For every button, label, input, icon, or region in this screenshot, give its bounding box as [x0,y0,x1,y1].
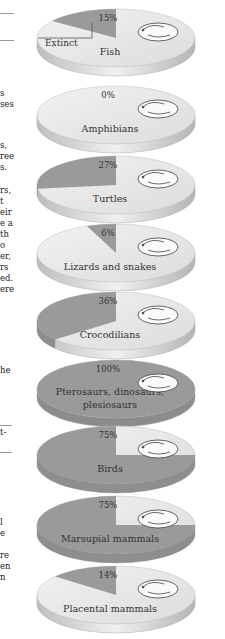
category-label: Crocodilians [80,329,141,340]
bird-icon [138,440,178,458]
pie-disc-pterosaurs-dinosaurs-plesiosaurs: 100%Pterosaurs, dinosaurs,plesiosaurs [37,360,195,427]
snake-icon [138,238,178,256]
pie-disc-birds: 75%Birds [37,426,195,493]
percent-label: 75% [99,500,118,510]
pie-disc-amphibians: 0%Amphibians [37,86,195,153]
pie-disc-marsupial-mammals: 75%Marsupial mammals [37,496,195,563]
percent-label: 75% [99,430,118,440]
category-label: Placental mammals [63,603,157,614]
category-label: Fish [100,46,121,57]
marsupial-icon [138,510,178,528]
percent-label: 6% [101,228,115,238]
crocodile-icon [138,306,178,324]
category-label: Amphibians [81,123,139,134]
pie-disc-lizards-and-snakes: 6%Lizards and snakes [37,224,195,291]
fish-icon [138,23,178,41]
category-label: Marsupial mammals [61,533,159,544]
dinosaur-icon [138,374,178,392]
extinct-legend-label: Extinct [45,38,78,48]
category-label: plesiosaurs [83,399,138,410]
pie-disc-turtles: 27%Turtles [37,156,195,223]
pie-disc-crocodilians: 36%Crocodilians [37,292,195,359]
mouse-icon [138,580,178,598]
extinction-pie-stack: 15%Fish0%Amphibians27%Turtles6%Lizards a… [0,0,225,639]
frog-icon [138,100,178,118]
category-label: Turtles [93,193,127,204]
percent-label: 14% [99,570,118,580]
percent-label: 100% [96,364,120,374]
turtle-icon [138,170,178,188]
pie-disc-placental-mammals: 14%Placental mammals [37,566,195,633]
percent-label: 36% [99,296,118,306]
percent-label: 27% [99,160,118,170]
percent-label: 0% [101,90,115,100]
category-label: Birds [97,463,123,474]
percent-label: 15% [99,13,118,23]
category-label: Lizards and snakes [64,261,156,272]
